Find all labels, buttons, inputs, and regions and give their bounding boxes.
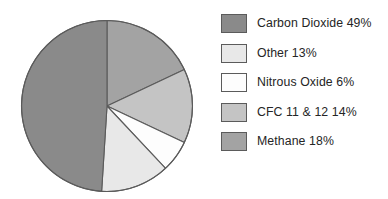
pie-chart-svg <box>18 17 198 197</box>
legend-swatch-nitrous-oxide <box>221 73 247 92</box>
pie-chart <box>18 17 198 197</box>
legend-swatch-carbon-dioxide <box>221 14 247 33</box>
legend-swatch-cfc-11-and-12 <box>221 103 247 122</box>
chart-legend: Carbon Dioxide 49% Other 13% Nitrous Oxi… <box>221 8 388 158</box>
pie-slice-carbon-dioxide <box>22 21 107 192</box>
legend-item-nitrous-oxide: Nitrous Oxide 6% <box>221 71 354 93</box>
legend-item-cfc-11-and-12: CFC 11 & 12 14% <box>221 101 357 123</box>
legend-label-methane: Methane 18% <box>257 135 334 148</box>
legend-label-cfc-11-and-12: CFC 11 & 12 14% <box>257 106 357 119</box>
legend-label-carbon-dioxide: Carbon Dioxide 49% <box>257 17 372 30</box>
legend-swatch-other <box>221 44 247 63</box>
legend-item-carbon-dioxide: Carbon Dioxide 49% <box>221 12 372 34</box>
legend-item-other: Other 13% <box>221 42 317 64</box>
legend-item-methane: Methane 18% <box>221 130 334 152</box>
legend-swatch-methane <box>221 132 247 151</box>
pie-slice-group <box>22 21 193 192</box>
legend-label-other: Other 13% <box>257 47 317 60</box>
pie-chart-figure: Carbon Dioxide 49% Other 13% Nitrous Oxi… <box>0 0 388 199</box>
legend-label-nitrous-oxide: Nitrous Oxide 6% <box>257 76 354 89</box>
